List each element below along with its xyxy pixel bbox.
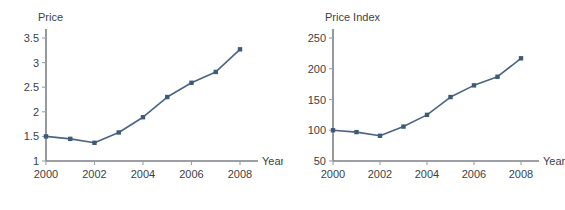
price-x-tick-label: 2004	[131, 168, 155, 180]
price-y-tick-label: 2.5	[24, 81, 39, 93]
price-chart-svg: 11.522.533.520002002200420062008 Price Y…	[0, 0, 283, 210]
price-index-data-point	[354, 130, 358, 134]
price-index-data-point	[472, 83, 476, 87]
price-x-tick-label: 2008	[228, 168, 252, 180]
price-index-chart-ticklabels: 5010015020025020002002200420062008	[308, 32, 534, 180]
price-y-tick-label: 3.5	[24, 32, 39, 44]
price-index-chart-ticks	[329, 38, 521, 165]
price-chart-panel: 11.522.533.520002002200420062008 Price Y…	[0, 0, 283, 210]
price-chart-markers	[44, 47, 242, 145]
price-index-data-point	[495, 75, 499, 79]
price-y-tick-label: 1.5	[24, 130, 39, 142]
price-y-tick-label: 3	[33, 57, 39, 69]
price-index-y-tick-label: 100	[308, 124, 326, 136]
price-index-chart-x-axis-title: Year	[543, 155, 565, 167]
price-index-x-tick-label: 2008	[509, 168, 533, 180]
price-index-y-tick-label: 150	[308, 94, 326, 106]
price-x-tick-label: 2000	[34, 168, 58, 180]
price-index-chart-axes	[333, 29, 539, 161]
price-index-x-tick-label: 2000	[321, 168, 345, 180]
price-data-point	[68, 137, 72, 141]
price-index-chart-panel: 5010015020025020002002200420062008 Price…	[283, 0, 565, 210]
price-index-y-tick-label: 250	[308, 32, 326, 44]
price-index-data-point	[401, 124, 405, 128]
price-y-tick-label: 2	[33, 106, 39, 118]
price-index-data-point	[448, 95, 452, 99]
price-index-y-tick-label: 200	[308, 63, 326, 75]
price-chart-series	[46, 49, 240, 142]
price-index-x-tick-label: 2004	[415, 168, 439, 180]
price-index-series-line	[333, 58, 521, 135]
price-index-data-point	[378, 134, 382, 138]
price-data-point	[238, 47, 242, 51]
price-index-chart-series	[333, 58, 521, 135]
price-chart-ticklabels: 11.522.533.520002002200420062008	[24, 32, 253, 180]
price-data-point	[189, 81, 193, 85]
price-index-chart-y-axis-title: Price Index	[325, 11, 381, 23]
price-data-point	[117, 130, 121, 134]
price-series-line	[46, 49, 240, 142]
price-index-data-point	[331, 128, 335, 132]
price-y-tick-label: 1	[33, 155, 39, 167]
price-chart-y-axis-title: Price	[38, 11, 63, 23]
price-data-point	[141, 115, 145, 119]
price-data-point	[165, 95, 169, 99]
price-index-x-tick-label: 2002	[368, 168, 392, 180]
price-chart-x-axis-title: Year	[262, 155, 283, 167]
price-index-x-tick-label: 2006	[462, 168, 486, 180]
price-x-tick-label: 2002	[82, 168, 106, 180]
price-index-chart-svg: 5010015020025020002002200420062008 Price…	[283, 0, 565, 210]
price-chart-axes	[46, 29, 258, 161]
price-x-tick-label: 2006	[179, 168, 203, 180]
price-chart-ticks	[42, 38, 240, 165]
price-data-point	[44, 134, 48, 138]
price-index-y-tick-label: 50	[314, 155, 326, 167]
price-index-data-point	[519, 56, 523, 60]
price-index-data-point	[425, 113, 429, 117]
price-data-point	[92, 141, 96, 145]
price-index-chart-markers	[331, 56, 523, 138]
chart-page: 11.522.533.520002002200420062008 Price Y…	[0, 0, 565, 210]
price-data-point	[214, 70, 218, 74]
